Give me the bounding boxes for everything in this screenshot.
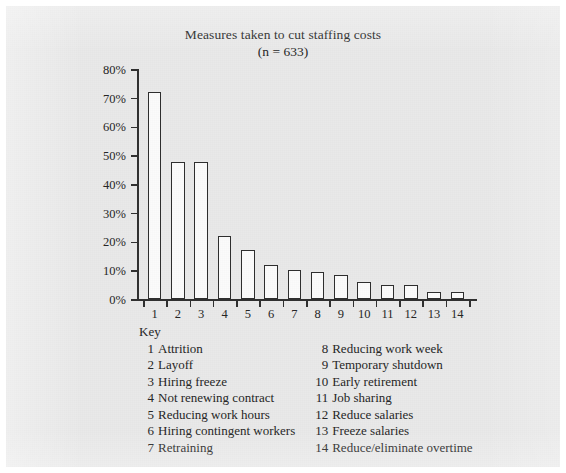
y-axis-tick: 40% bbox=[131, 184, 137, 186]
key-column-right: 8Reducing work week9Temporary shutdown10… bbox=[313, 341, 472, 457]
key-item: 4Not renewing contract bbox=[139, 390, 295, 407]
key-item: 14Reduce/eliminate overtime bbox=[313, 440, 472, 457]
x-axis-tick bbox=[213, 301, 215, 307]
bar bbox=[334, 275, 348, 299]
figure-page: Measures taken to cut staffing costs (n … bbox=[0, 0, 566, 473]
x-axis-tick-label: 11 bbox=[381, 307, 393, 322]
key-item-label: Hiring freeze bbox=[158, 374, 227, 391]
bar bbox=[264, 265, 278, 300]
bar bbox=[218, 236, 232, 299]
key-heading: Key bbox=[139, 324, 489, 341]
bar bbox=[241, 250, 255, 299]
x-axis-tick bbox=[190, 301, 192, 307]
key-item: 7Retraining bbox=[139, 440, 295, 457]
y-axis-tick-label: 50% bbox=[103, 149, 126, 164]
key-item-number: 4 bbox=[139, 390, 154, 407]
plot-area: 0%10%20%30%40%50%60%70%80% 1234567891011… bbox=[137, 69, 477, 301]
bar bbox=[288, 270, 302, 299]
key-item: 12Reduce salaries bbox=[313, 407, 472, 424]
y-axis-tick: 80% bbox=[131, 69, 137, 71]
key-item: 6Hiring contingent workers bbox=[139, 423, 295, 440]
x-axis-tick bbox=[306, 301, 308, 307]
bar bbox=[311, 272, 325, 299]
x-axis-tick-label: 13 bbox=[428, 307, 441, 322]
key-item-number: 5 bbox=[139, 407, 154, 424]
x-axis-tick bbox=[376, 301, 378, 307]
x-axis-tick bbox=[422, 301, 424, 307]
chart-title: Measures taken to cut staffing costs bbox=[6, 26, 560, 43]
title-block: Measures taken to cut staffing costs (n … bbox=[6, 26, 560, 60]
y-axis-tick: 50% bbox=[131, 155, 137, 157]
key-item-number: 7 bbox=[139, 440, 154, 457]
key-item-label: Reduce salaries bbox=[332, 407, 413, 424]
key-item-label: Early retirement bbox=[332, 374, 417, 391]
key-item-number: 14 bbox=[313, 440, 328, 457]
key-item-number: 6 bbox=[139, 423, 154, 440]
chart-subtitle: (n = 633) bbox=[6, 43, 560, 60]
y-axis-tick-label: 80% bbox=[103, 62, 126, 77]
x-axis-tick-label: 8 bbox=[315, 307, 321, 322]
key-item: 1Attrition bbox=[139, 341, 295, 358]
x-axis-tick bbox=[166, 301, 168, 307]
x-axis-tick bbox=[283, 301, 285, 307]
key-item-number: 3 bbox=[139, 374, 154, 391]
x-axis-tick-label: 4 bbox=[221, 307, 227, 322]
bar bbox=[451, 292, 465, 299]
key-item-label: Reducing work week bbox=[332, 341, 442, 358]
key-item: 2Layoff bbox=[139, 357, 295, 374]
key-item: 5Reducing work hours bbox=[139, 407, 295, 424]
y-axis-tick-label: 30% bbox=[103, 206, 126, 221]
y-axis-tick-label: 0% bbox=[109, 292, 126, 307]
key-item-label: Reducing work hours bbox=[158, 407, 270, 424]
y-axis-line bbox=[137, 69, 139, 301]
x-axis-tick bbox=[469, 301, 471, 307]
key-column-left: 1Attrition2Layoff3Hiring freeze4Not rene… bbox=[139, 341, 295, 457]
x-axis-tick-label: 10 bbox=[358, 307, 371, 322]
x-axis-tick-label: 2 bbox=[175, 307, 181, 322]
key-item-label: Attrition bbox=[158, 341, 203, 358]
bar bbox=[148, 92, 162, 299]
key-item-label: Temporary shutdown bbox=[332, 357, 443, 374]
key-item-number: 1 bbox=[139, 341, 154, 358]
key-item-label: Layoff bbox=[158, 357, 193, 374]
key-item-label: Reduce/eliminate overtime bbox=[332, 440, 472, 457]
key-item-label: Job sharing bbox=[332, 390, 392, 407]
x-axis-tick bbox=[329, 301, 331, 307]
key-item-label: Hiring contingent workers bbox=[158, 423, 295, 440]
bar bbox=[427, 292, 441, 299]
key-item: 13Freeze salaries bbox=[313, 423, 472, 440]
key-item-number: 8 bbox=[313, 341, 328, 358]
y-axis-tick-label: 60% bbox=[103, 120, 126, 135]
key-item-label: Freeze salaries bbox=[332, 423, 409, 440]
key-item-number: 10 bbox=[313, 374, 328, 391]
x-axis-tick-label: 1 bbox=[152, 307, 158, 322]
y-axis-tick: 60% bbox=[131, 127, 137, 129]
x-axis-tick-label: 5 bbox=[245, 307, 251, 322]
key-item-number: 13 bbox=[313, 423, 328, 440]
x-axis-tick-label: 14 bbox=[451, 307, 464, 322]
y-axis-tick: 30% bbox=[131, 213, 137, 215]
x-axis-tick-label: 3 bbox=[198, 307, 204, 322]
x-axis-tick-label: 12 bbox=[405, 307, 418, 322]
x-axis-tick bbox=[399, 301, 401, 307]
y-axis-tick-label: 20% bbox=[103, 235, 126, 250]
y-axis-tick: 70% bbox=[131, 98, 137, 100]
x-axis-tick bbox=[259, 301, 261, 307]
key-item-number: 11 bbox=[313, 390, 328, 407]
key-legend: Key 1Attrition2Layoff3Hiring freeze4Not … bbox=[139, 324, 489, 457]
x-axis-tick bbox=[353, 301, 355, 307]
key-item-number: 2 bbox=[139, 357, 154, 374]
bar bbox=[171, 162, 185, 299]
y-axis-tick-label: 40% bbox=[103, 177, 126, 192]
x-axis-tick bbox=[236, 301, 238, 307]
key-item-label: Not renewing contract bbox=[158, 390, 274, 407]
x-axis-tick bbox=[446, 301, 448, 307]
key-item-number: 12 bbox=[313, 407, 328, 424]
y-axis-tick: 0% bbox=[131, 299, 137, 301]
key-item: 11Job sharing bbox=[313, 390, 472, 407]
bar bbox=[194, 162, 208, 299]
x-axis-tick-label: 6 bbox=[268, 307, 274, 322]
key-item: 9Temporary shutdown bbox=[313, 357, 472, 374]
bar bbox=[381, 285, 395, 299]
key-item: 8Reducing work week bbox=[313, 341, 472, 358]
